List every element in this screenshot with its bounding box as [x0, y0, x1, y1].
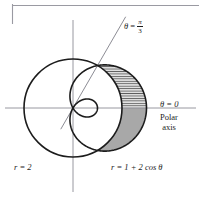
fraction-numerator: π — [137, 19, 143, 26]
polar-axis-line-2: axis — [162, 122, 176, 132]
fraction-denominator: 3 — [137, 28, 143, 35]
label-theta-equals-pi-over-three: θ = π3 — [124, 19, 143, 35]
polar-graph-figure: θ = π3 θ = 0 Polar axis r = 2 r = 1 + 2 … — [0, 0, 199, 204]
label-theta-equals-zero: θ = 0 — [160, 100, 178, 109]
equals-symbol: = — [128, 21, 137, 31]
label-limacon-equation: r = 1 + 2 cos θ — [111, 163, 163, 172]
label-polar-axis: Polar axis — [160, 112, 178, 132]
fraction-pi-over-three: π3 — [137, 19, 143, 35]
page-frame — [12, 4, 199, 24]
label-circle-equation: r = 2 — [14, 163, 32, 172]
polar-axis-line-1: Polar — [160, 112, 178, 122]
